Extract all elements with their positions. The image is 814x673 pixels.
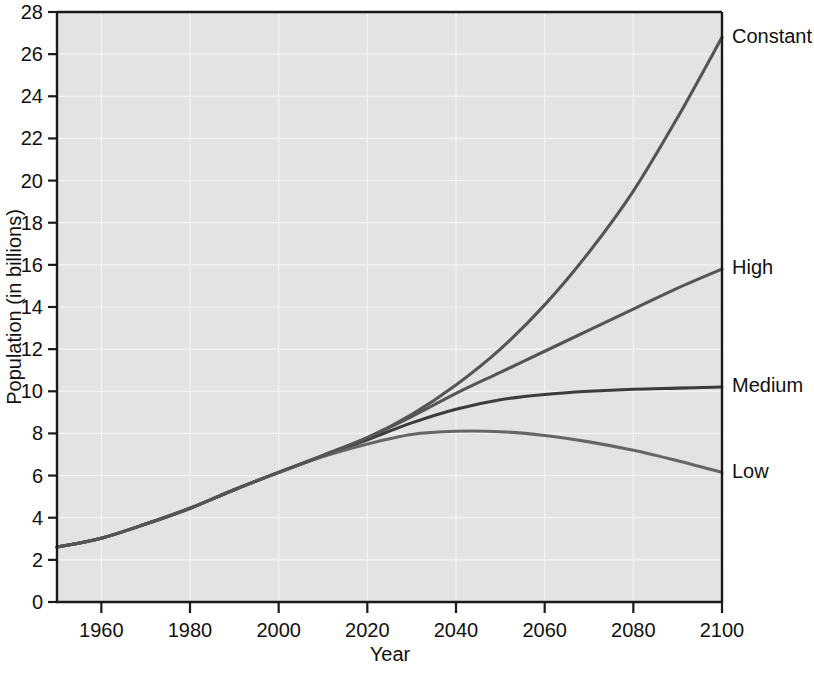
x-tick-label: 2060: [522, 619, 567, 641]
x-tick-label: 1960: [79, 619, 124, 641]
series-label-low: Low: [732, 460, 769, 482]
y-tick-label: 8: [32, 422, 43, 444]
series-label-constant: Constant: [732, 25, 812, 47]
x-tick-label: 2040: [434, 619, 479, 641]
y-tick-label: 0: [32, 591, 43, 613]
y-tick-label: 2: [32, 549, 43, 571]
x-tick-label: 2100: [700, 619, 745, 641]
series-label-medium: Medium: [732, 374, 803, 396]
series-label-high: High: [732, 256, 773, 278]
y-tick-label: 4: [32, 507, 43, 529]
x-tick-label: 2080: [611, 619, 656, 641]
x-tick-label: 2000: [256, 619, 301, 641]
y-tick-label: 20: [21, 170, 43, 192]
y-axis-title: Population (in billions): [3, 209, 25, 405]
y-tick-label: 6: [32, 465, 43, 487]
y-tick-label: 22: [21, 127, 43, 149]
y-tick-label: 26: [21, 43, 43, 65]
y-tick-label: 28: [21, 1, 43, 23]
x-tick-label: 2020: [345, 619, 390, 641]
population-projection-chart: 0246810121416182022242628 19601980200020…: [0, 0, 814, 673]
x-tick-label: 1980: [168, 619, 213, 641]
chart-canvas: 0246810121416182022242628 19601980200020…: [0, 0, 814, 673]
x-axis-title: Year: [370, 643, 411, 665]
y-tick-label: 24: [21, 85, 43, 107]
